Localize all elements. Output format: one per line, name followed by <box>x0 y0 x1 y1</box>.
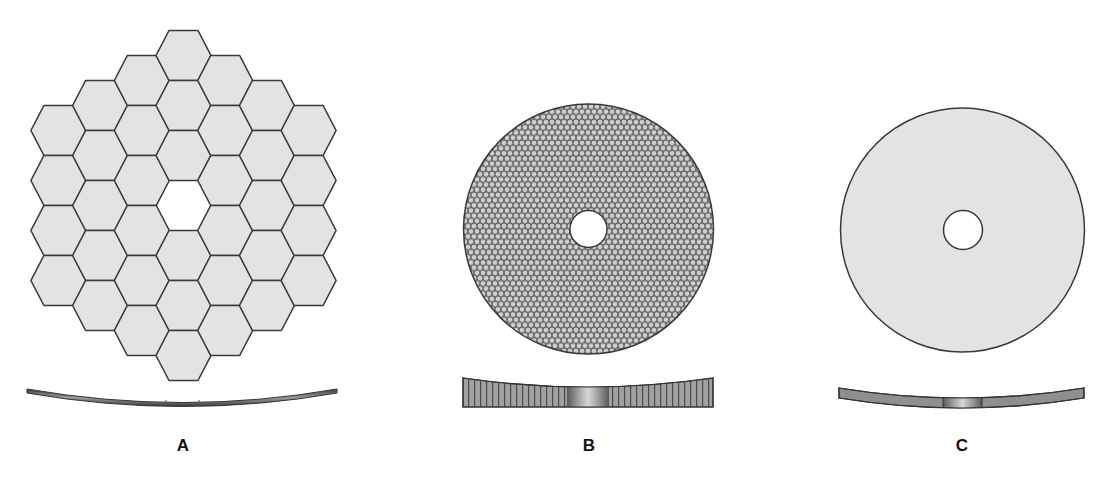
hex-mirror-segment <box>281 206 336 256</box>
hex-mirror-segment <box>281 156 336 206</box>
honeycomb-mirror-front-view <box>464 104 714 354</box>
central-hole-section <box>567 386 609 407</box>
segmented-mirror-front-view <box>31 31 336 381</box>
central-hole-section <box>943 398 982 409</box>
honeycomb-mirror-side-profile <box>463 378 713 407</box>
panel-label-b: B <box>569 436 609 456</box>
panel-label-c: C <box>942 436 982 456</box>
central-hole <box>570 211 607 248</box>
panel-label-a: A <box>163 436 203 456</box>
mirror-comparison-diagram <box>0 0 1110 483</box>
hex-mirror-segment <box>281 106 336 156</box>
hex-mirror-segment <box>281 256 336 306</box>
central-hole <box>944 211 983 250</box>
thin-mirror-front-view <box>841 108 1085 352</box>
thin-mirror-side-profile <box>839 388 1084 408</box>
segmented-mirror-side-profile <box>27 389 337 407</box>
